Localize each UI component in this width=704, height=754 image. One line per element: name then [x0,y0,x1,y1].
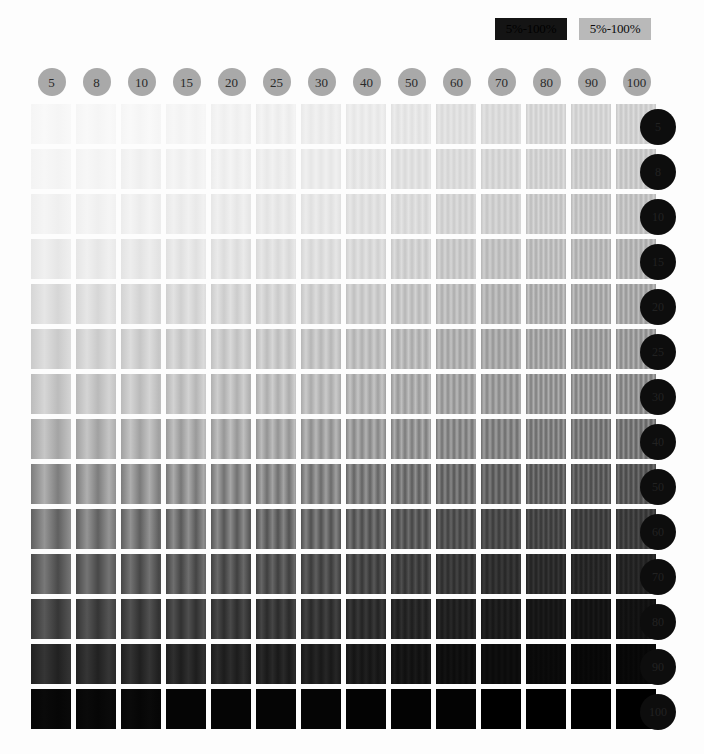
patch-r10-c8 [76,194,116,234]
patch-r60-c10 [121,509,161,549]
column-header-cell: 20 [209,68,254,96]
patch-r15-c60 [436,239,476,279]
patch-r100-c5 [31,689,71,729]
column-header-badge-20: 20 [218,68,246,96]
patch-r50-c60 [436,464,476,504]
patch-r40-c5 [31,419,71,459]
row-header-cell: 60 [640,509,676,554]
patch-r60-c8 [76,509,116,549]
patch-r40-c8 [76,419,116,459]
column-header-badge-5: 5 [38,68,66,96]
patch-r15-c25 [256,239,296,279]
patch-r15-c8 [76,239,116,279]
row-header-column: 581015202530405060708090100 [640,104,676,734]
patch-r5-c25 [256,104,296,144]
row-header-cell: 25 [640,329,676,374]
patch-r40-c70 [481,419,521,459]
column-header-cell: 15 [164,68,209,96]
patch-r80-c60 [436,599,476,639]
patch-r100-c50 [391,689,431,729]
patch-r30-c70 [481,374,521,414]
patch-r10-c60 [436,194,476,234]
patch-r20-c40 [346,284,386,324]
patch-r20-c70 [481,284,521,324]
row-header-badge-10: 10 [640,199,676,235]
patch-r15-c40 [346,239,386,279]
row-header-cell: 70 [640,554,676,599]
patch-r80-c10 [121,599,161,639]
patch-r10-c15 [166,194,206,234]
column-header-cell: 80 [524,68,569,96]
patch-r20-c8 [76,284,116,324]
patch-r90-c40 [346,644,386,684]
row-header-badge-80: 80 [640,604,676,640]
patch-r10-c50 [391,194,431,234]
patch-r5-c8 [76,104,116,144]
patch-r100-c30 [301,689,341,729]
patch-r70-c40 [346,554,386,594]
patch-r50-c10 [121,464,161,504]
patch-r100-c90 [571,689,611,729]
patch-r60-c30 [301,509,341,549]
patch-r40-c30 [301,419,341,459]
patch-r15-c15 [166,239,206,279]
patch-r90-c60 [436,644,476,684]
row-header-cell: 15 [640,239,676,284]
patch-r30-c25 [256,374,296,414]
patch-r50-c90 [571,464,611,504]
row-header-cell: 30 [640,374,676,419]
patch-r8-c20 [211,149,251,189]
column-header-cell: 5 [29,68,74,96]
patch-r30-c5 [31,374,71,414]
patch-r40-c40 [346,419,386,459]
column-header-cell: 70 [479,68,524,96]
patch-r25-c80 [526,329,566,369]
patch-r25-c15 [166,329,206,369]
patch-r50-c25 [256,464,296,504]
patch-r80-c40 [346,599,386,639]
patch-r15-c10 [121,239,161,279]
patch-r70-c20 [211,554,251,594]
patch-r60-c25 [256,509,296,549]
patch-r30-c20 [211,374,251,414]
patch-r50-c15 [166,464,206,504]
patch-r8-c40 [346,149,386,189]
column-header-badge-90: 90 [578,68,606,96]
row-header-badge-50: 50 [640,469,676,505]
patch-r15-c5 [31,239,71,279]
patch-r10-c20 [211,194,251,234]
patch-r70-c80 [526,554,566,594]
patch-r30-c40 [346,374,386,414]
patch-r70-c30 [301,554,341,594]
patch-r40-c50 [391,419,431,459]
row-header-badge-25: 25 [640,334,676,370]
patch-r70-c15 [166,554,206,594]
patch-r70-c90 [571,554,611,594]
patch-r60-c90 [571,509,611,549]
patch-r60-c15 [166,509,206,549]
column-header-row: 581015202530405060708090100 [29,68,659,96]
column-header-badge-30: 30 [308,68,336,96]
patch-r80-c5 [31,599,71,639]
patch-r70-c70 [481,554,521,594]
row-header-badge-90: 90 [640,649,676,685]
patch-r30-c50 [391,374,431,414]
row-header-cell: 5 [640,104,676,149]
patch-r30-c15 [166,374,206,414]
patch-r50-c40 [346,464,386,504]
patch-r80-c8 [76,599,116,639]
patch-r15-c50 [391,239,431,279]
patch-r80-c25 [256,599,296,639]
column-header-cell: 60 [434,68,479,96]
column-header-badge-10: 10 [128,68,156,96]
patch-r50-c30 [301,464,341,504]
column-header-badge-25: 25 [263,68,291,96]
column-header-badge-70: 70 [488,68,516,96]
patch-r15-c30 [301,239,341,279]
patch-r10-c30 [301,194,341,234]
patch-r10-c80 [526,194,566,234]
column-header-badge-80: 80 [533,68,561,96]
patch-r10-c25 [256,194,296,234]
patch-r25-c30 [301,329,341,369]
patch-r60-c20 [211,509,251,549]
